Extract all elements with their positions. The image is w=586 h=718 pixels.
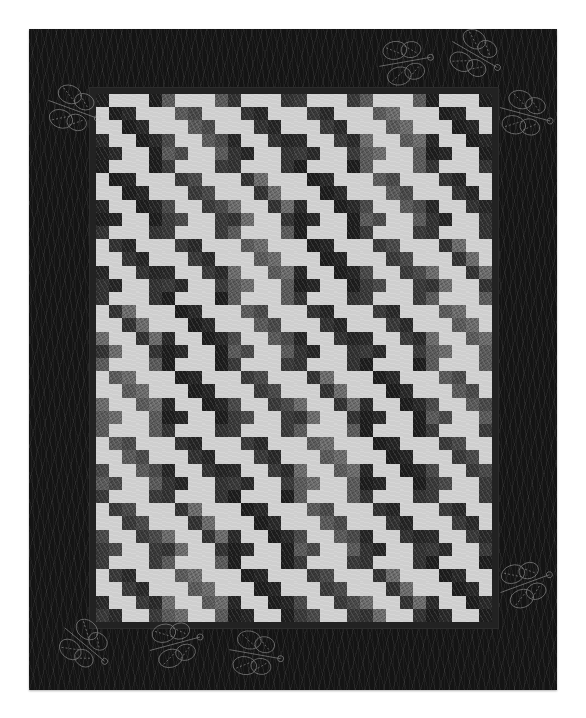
light-patch — [320, 358, 333, 371]
dark-patch — [413, 266, 426, 279]
dark-patch — [413, 147, 426, 160]
light-patch — [307, 582, 320, 595]
dark-patch — [360, 543, 373, 556]
light-patch — [294, 120, 307, 133]
light-patch — [109, 490, 122, 503]
dark-patch — [228, 134, 241, 147]
light-patch — [202, 490, 215, 503]
dark-patch — [109, 305, 122, 318]
dark-patch — [294, 134, 307, 147]
light-patch — [175, 226, 188, 239]
light-patch — [215, 384, 228, 397]
dark-patch — [162, 490, 175, 503]
dark-patch — [202, 398, 215, 411]
light-patch — [109, 384, 122, 397]
light-patch — [334, 160, 347, 173]
dark-patch — [334, 332, 347, 345]
dark-patch — [268, 596, 281, 609]
dark-patch — [347, 332, 360, 345]
light-patch — [347, 437, 360, 450]
light-patch — [452, 543, 465, 556]
dark-patch — [96, 424, 109, 437]
light-patch — [373, 200, 386, 213]
light-patch — [254, 266, 267, 279]
light-patch — [294, 450, 307, 463]
dark-patch — [294, 490, 307, 503]
dark-patch — [294, 292, 307, 305]
light-patch — [215, 120, 228, 133]
dark-patch — [241, 477, 254, 490]
light-patch — [175, 384, 188, 397]
dark-patch — [466, 384, 479, 397]
dark-patch — [334, 186, 347, 199]
dark-patch — [413, 398, 426, 411]
light-patch — [426, 186, 439, 199]
light-patch — [334, 371, 347, 384]
light-patch — [466, 107, 479, 120]
light-patch — [136, 358, 149, 371]
dark-patch — [202, 582, 215, 595]
dark-patch — [162, 266, 175, 279]
light-patch — [360, 252, 373, 265]
dark-patch — [294, 279, 307, 292]
light-patch — [241, 582, 254, 595]
dark-patch — [162, 596, 175, 609]
dark-patch — [413, 226, 426, 239]
dark-patch — [439, 411, 452, 424]
light-patch — [228, 503, 241, 516]
light-patch — [268, 477, 281, 490]
dark-patch — [188, 450, 201, 463]
dark-patch — [413, 609, 426, 622]
light-patch — [360, 384, 373, 397]
light-patch — [162, 437, 175, 450]
light-patch — [202, 424, 215, 437]
light-patch — [347, 318, 360, 331]
light-patch — [347, 384, 360, 397]
light-patch — [175, 358, 188, 371]
light-patch — [202, 345, 215, 358]
dark-patch — [228, 411, 241, 424]
dark-patch — [400, 384, 413, 397]
light-patch — [307, 266, 320, 279]
light-patch — [334, 107, 347, 120]
light-patch — [334, 213, 347, 226]
dark-patch — [162, 543, 175, 556]
light-patch — [188, 213, 201, 226]
dark-patch — [400, 582, 413, 595]
light-patch — [175, 200, 188, 213]
dark-patch — [122, 516, 135, 529]
dark-patch — [347, 530, 360, 543]
light-patch — [162, 450, 175, 463]
light-patch — [360, 318, 373, 331]
light-patch — [373, 464, 386, 477]
light-patch — [162, 120, 175, 133]
light-patch — [307, 200, 320, 213]
dark-patch — [228, 226, 241, 239]
dark-patch — [122, 503, 135, 516]
dark-patch — [109, 147, 122, 160]
dark-patch — [479, 609, 492, 622]
light-patch — [439, 332, 452, 345]
dark-patch — [215, 411, 228, 424]
dark-patch — [149, 213, 162, 226]
light-patch — [96, 318, 109, 331]
light-patch — [400, 358, 413, 371]
light-patch — [241, 318, 254, 331]
dark-patch — [294, 411, 307, 424]
dark-patch — [241, 147, 254, 160]
light-patch — [202, 292, 215, 305]
dark-patch — [149, 292, 162, 305]
dark-patch — [254, 569, 267, 582]
dark-patch — [479, 134, 492, 147]
light-patch — [294, 371, 307, 384]
dark-patch — [162, 147, 175, 160]
dark-patch — [373, 543, 386, 556]
dark-patch — [307, 279, 320, 292]
dark-patch — [334, 384, 347, 397]
light-patch — [202, 160, 215, 173]
dark-patch — [452, 516, 465, 529]
dark-patch — [439, 437, 452, 450]
dark-patch — [334, 450, 347, 463]
light-patch — [281, 384, 294, 397]
light-patch — [241, 450, 254, 463]
